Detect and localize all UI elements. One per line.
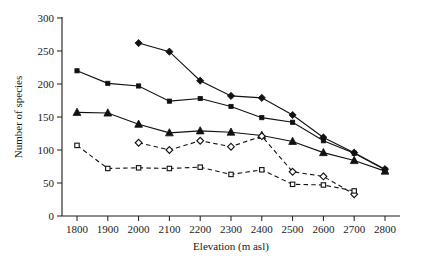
y-tick-label: 150: [38, 111, 55, 123]
y-axis-title: Number of species: [12, 76, 24, 158]
filled-square-marker: [106, 81, 110, 85]
chart-figure: 300250200150100500 180019002000210022002…: [0, 0, 431, 266]
filled-square-marker: [321, 139, 325, 143]
open-square-marker: [352, 189, 356, 193]
filled-square-marker: [198, 96, 202, 100]
filled-diamond-marker: [289, 111, 296, 118]
x-axis-title: Elevation (m asl): [193, 240, 269, 253]
x-tick-label: 1900: [97, 223, 120, 235]
y-axis-ticks: 300250200150100500: [38, 12, 63, 222]
y-tick-label: 250: [38, 45, 55, 57]
open-square-marker: [167, 166, 171, 170]
open-square-marker: [75, 143, 79, 147]
filled-square-marker: [291, 120, 295, 124]
y-tick-label: 200: [38, 78, 55, 90]
open-square-marker: [260, 168, 264, 172]
open-square-series-line: [77, 145, 354, 191]
x-tick-label: 2600: [312, 223, 335, 235]
x-tick-label: 2500: [282, 223, 305, 235]
filled-square-marker: [352, 151, 356, 155]
x-tick-label: 2100: [158, 223, 181, 235]
open-square-marker: [198, 165, 202, 169]
filled-triangle-marker: [196, 127, 204, 134]
open-square-marker: [136, 166, 140, 170]
filled-diamond-marker: [135, 39, 142, 46]
axis-group: [62, 17, 400, 216]
open-square-marker: [321, 183, 325, 187]
open-diamond-marker: [320, 173, 327, 180]
open-diamond-marker: [228, 143, 235, 150]
x-tick-label: 2200: [189, 223, 212, 235]
filled-square-marker: [75, 69, 79, 73]
filled-triangle-series-line: [77, 112, 385, 171]
y-tick-label: 0: [49, 210, 55, 222]
filled-square-marker: [137, 84, 141, 88]
x-tick-label: 2400: [251, 223, 274, 235]
filled-triangle-marker: [73, 108, 81, 115]
filled-diamond-marker: [258, 94, 265, 101]
x-tick-label: 2800: [374, 223, 397, 235]
open-square-marker: [229, 172, 233, 176]
y-tick-label: 100: [38, 144, 55, 156]
open-diamond-marker: [197, 137, 204, 144]
x-tick-label: 2700: [343, 223, 366, 235]
filled-square-marker: [229, 104, 233, 108]
filled-square-marker: [167, 99, 171, 103]
x-tick-label: 2300: [220, 223, 243, 235]
series-markers-group: [73, 39, 389, 197]
filled-diamond-marker: [227, 92, 234, 99]
open-diamond-marker: [166, 147, 173, 154]
filled-square-series-line: [77, 71, 385, 170]
y-tick-label: 300: [38, 12, 55, 24]
x-tick-label: 2000: [128, 223, 151, 235]
y-tick-label: 50: [43, 177, 55, 189]
filled-square-marker: [260, 116, 264, 120]
open-diamond-marker: [135, 139, 142, 146]
x-tick-label: 1800: [66, 223, 89, 235]
open-square-marker: [106, 166, 110, 170]
line-chart-plot: 300250200150100500 180019002000210022002…: [0, 0, 431, 266]
series-lines-group: [77, 43, 385, 194]
x-axis-ticks: 1800190020002100220023002400250026002700…: [66, 216, 397, 235]
open-square-marker: [290, 182, 294, 186]
